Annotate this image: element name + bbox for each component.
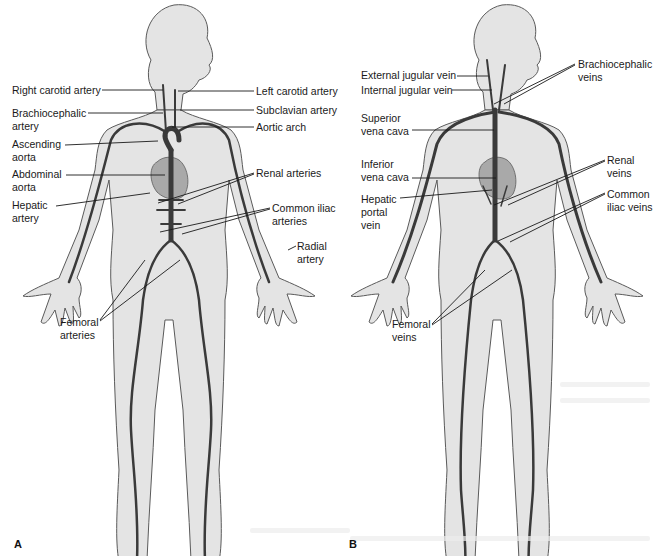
label-aortic-arch: Aortic arch [256,121,306,134]
label-brachiocephalic-veins: Brachiocephalic veins [578,58,652,84]
label-hepatic-artery: Hepatic artery [12,199,48,225]
label-hepatic-portal-vein: Hepatic portal vein [361,193,397,232]
label-brachiocephalic-artery: Brachiocephalic artery [12,107,86,133]
label-external-jugular-vein: External jugular vein [361,69,456,82]
label-femoral-veins: Femoral veins [392,318,431,344]
label-common-iliac-arteries: Common iliac arteries [272,202,336,228]
background-text [560,398,650,403]
label-left-carotid-artery: Left carotid artery [256,85,338,98]
label-superior-vena-cava: Superior vena cava [361,112,409,138]
label-subclavian-artery: Subclavian artery [256,104,337,117]
label-common-iliac-veins: Common iliac veins [607,188,653,214]
background-text [560,382,650,387]
panel-letter-b: B [349,538,357,550]
label-internal-jugular-vein: Internal jugular vein [361,84,453,97]
label-radial-artery: Radial artery [297,240,327,266]
panel-letter-a: A [14,538,22,550]
label-ascending-aorta: Ascending aorta [12,138,61,164]
label-renal-arteries: Renal arteries [256,167,321,180]
label-abdominal-aorta: Abdominal aorta [12,168,62,194]
label-right-carotid-artery: Right carotid artery [12,84,101,97]
label-renal-veins: Renal veins [607,154,634,180]
label-inferior-vena-cava: Inferior vena cava [361,158,409,184]
label-femoral-arteries: Femoral arteries [60,316,99,342]
background-text [250,528,350,533]
background-text [350,536,650,541]
